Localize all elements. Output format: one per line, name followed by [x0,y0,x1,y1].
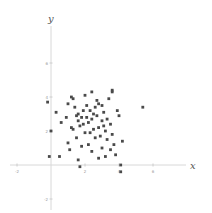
data-point [107,97,110,100]
x-tick-label: 6 [152,169,155,174]
data-point [113,143,116,146]
data-point [72,97,75,100]
data-point [102,125,105,128]
data-point [109,123,112,126]
data-point [50,130,53,133]
data-point [77,119,80,122]
data-point [96,99,99,102]
data-point [75,136,78,139]
data-point [82,109,85,112]
scatter-plot: -2246-2246 x y [0,0,212,213]
data-point [90,91,93,94]
data-point [121,140,124,143]
data-points [46,89,144,173]
data-point [87,121,90,124]
x-axis-label: x [190,160,196,171]
y-tick-label: -2 [44,197,48,202]
data-point [101,104,104,107]
data-point [85,104,88,107]
data-point [73,106,76,109]
data-point [94,106,97,109]
data-point [97,102,100,105]
data-point [89,131,92,134]
data-point [96,114,99,117]
data-point [79,125,82,128]
data-point [102,111,105,114]
data-point [80,145,83,148]
data-point [68,148,71,151]
data-point [141,106,144,109]
data-point [48,155,51,158]
data-point [90,150,93,153]
data-point [79,165,82,168]
data-point [89,109,92,112]
data-point [111,91,114,94]
data-point [116,109,119,112]
data-point [84,131,87,134]
data-point [118,114,121,117]
data-point [77,159,80,162]
data-point [80,116,83,119]
data-point [65,116,68,119]
data-point [99,135,102,138]
data-point [97,157,100,160]
data-point [58,155,61,158]
y-tick-label: 2 [45,129,48,134]
data-point [67,142,70,145]
data-point [104,130,107,133]
data-point [85,116,88,119]
y-tick-label: 4 [45,95,48,100]
data-point [84,94,87,97]
data-point [87,143,90,146]
data-point [104,155,107,158]
data-point [106,118,109,121]
data-point [111,133,114,136]
data-point [92,128,95,131]
data-point [101,119,104,122]
data-point [109,148,112,151]
data-point [90,118,93,121]
tick-marks: -2246-2246 [15,61,155,202]
y-tick-label: 6 [45,61,48,66]
y-axis-label: y [47,13,54,24]
data-point [77,113,80,116]
data-point [114,153,117,156]
data-point [106,138,109,141]
x-tick-label: -2 [15,169,19,174]
data-point [92,113,95,116]
data-point [97,126,100,129]
data-point [67,102,70,105]
data-point [60,121,63,124]
axes [10,26,186,210]
data-point [119,164,122,167]
data-point [101,147,104,150]
data-point [70,126,73,129]
data-point [82,123,85,126]
data-point [94,136,97,139]
x-tick-label: 2 [84,169,87,174]
data-point [55,111,58,114]
data-point [46,101,49,104]
data-point [119,170,122,173]
